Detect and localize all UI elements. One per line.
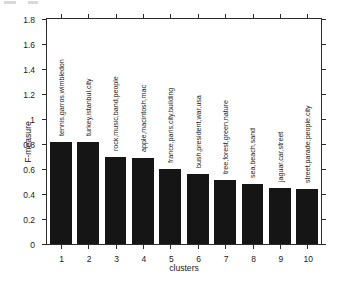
y-tick-right bbox=[321, 119, 326, 120]
bar: tree,forest,green,nature bbox=[214, 180, 236, 244]
y-tick-label: 1.8 bbox=[23, 15, 35, 25]
bar: france,paris,city,building bbox=[159, 169, 181, 244]
bar-annotation-label: street,parade,people,city bbox=[304, 106, 311, 183]
figure: F-measure 00.20.40.60.811.21.41.61.8 123… bbox=[0, 0, 342, 283]
bar: apple,macintosh,mac bbox=[132, 158, 154, 244]
bar-annotation-label: apple,macintosh,mac bbox=[140, 85, 147, 152]
bar-annotation-label: sea,beach,sand bbox=[249, 128, 256, 178]
plot-area: 00.20.40.60.811.21.41.61.8 12345678910 t… bbox=[46, 18, 322, 245]
bar-slot: turkey,istanbul,city bbox=[74, 19, 101, 244]
bar-annotation-label: tennis,garros,wimbledon bbox=[58, 59, 65, 136]
y-tick-right bbox=[321, 94, 326, 95]
bar-slot: sea,beach,sand bbox=[239, 19, 266, 244]
bar-slot: tennis,garros,wimbledon bbox=[47, 19, 74, 244]
bar: bush,president,war,usa bbox=[187, 174, 209, 244]
y-tick: 0 bbox=[42, 244, 47, 245]
bar-slot: bush,president,war,usa bbox=[184, 19, 211, 244]
x-tick: 6 bbox=[198, 244, 199, 249]
bars-layer: tennis,garros,wimbledonturkey,istanbul,c… bbox=[47, 19, 321, 244]
x-tick: 1 bbox=[61, 244, 62, 249]
y-tick-right bbox=[321, 244, 326, 245]
bar-annotation-label: tree,forest,green,nature bbox=[222, 100, 229, 174]
scan-artifact-right bbox=[28, 1, 38, 4]
y-tick-label: 1.2 bbox=[23, 90, 35, 100]
y-tick-right bbox=[321, 69, 326, 70]
y-tick-right bbox=[321, 169, 326, 170]
y-tick-label: 0.6 bbox=[23, 165, 35, 175]
x-tick: 4 bbox=[143, 244, 144, 249]
x-tick: 8 bbox=[253, 244, 254, 249]
y-tick-right bbox=[321, 194, 326, 195]
bar: tennis,garros,wimbledon bbox=[50, 142, 72, 245]
y-tick-right bbox=[321, 144, 326, 145]
bar-slot: france,paris,city,building bbox=[157, 19, 184, 244]
y-tick-label: 0.2 bbox=[23, 215, 35, 225]
bar-slot: rock,music,band,people bbox=[102, 19, 129, 244]
bar-slot: tree,forest,green,nature bbox=[211, 19, 238, 244]
x-tick: 9 bbox=[280, 244, 281, 249]
x-tick: 7 bbox=[225, 244, 226, 249]
y-tick-label: 1 bbox=[30, 115, 35, 125]
x-tick: 2 bbox=[88, 244, 89, 249]
x-tick: 3 bbox=[116, 244, 117, 249]
x-axis-label: clusters bbox=[46, 263, 322, 273]
bar-annotation-label: turkey,istanbul,city bbox=[85, 78, 92, 136]
y-tick-label: 1.6 bbox=[23, 40, 35, 50]
y-tick-label: 1.4 bbox=[23, 65, 35, 75]
bar: turkey,istanbul,city bbox=[77, 142, 99, 245]
bar-annotation-label: jaguar,car,street bbox=[277, 131, 284, 181]
x-tick: 10 bbox=[307, 244, 308, 249]
bar: rock,music,band,people bbox=[105, 157, 127, 245]
bar: street,parade,people,city bbox=[296, 189, 318, 244]
bar: sea,beach,sand bbox=[242, 184, 264, 244]
y-tick-right bbox=[321, 19, 326, 20]
y-tick-right bbox=[321, 44, 326, 45]
scan-artifact-left bbox=[4, 1, 16, 4]
y-tick-label: 0 bbox=[30, 240, 35, 250]
bar-annotation-label: rock,music,band,people bbox=[112, 76, 119, 151]
y-tick-right bbox=[321, 219, 326, 220]
bar-slot: jaguar,car,street bbox=[266, 19, 293, 244]
bar-annotation-label: bush,president,war,usa bbox=[195, 95, 202, 168]
y-tick-label: 0.4 bbox=[23, 190, 35, 200]
bar-annotation-label: france,paris,city,building bbox=[167, 88, 174, 163]
x-tick: 5 bbox=[170, 244, 171, 249]
bar-slot: apple,macintosh,mac bbox=[129, 19, 156, 244]
bar: jaguar,car,street bbox=[269, 188, 291, 244]
bar-slot: street,parade,people,city bbox=[294, 19, 321, 244]
y-tick-label: 0.8 bbox=[23, 140, 35, 150]
